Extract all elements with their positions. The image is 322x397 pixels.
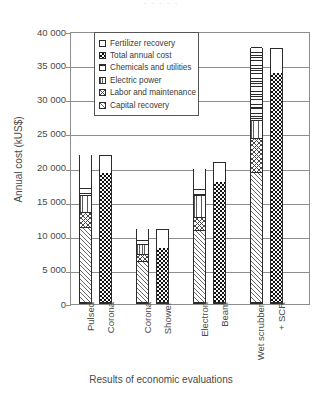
tick-25000 (66, 135, 71, 136)
segment-labor-maintenance (137, 255, 148, 263)
x-axis-labels: Pulsed Corona Corona Shower Electron Bea… (70, 306, 310, 368)
total-cost-bar-electron-beam (213, 162, 226, 304)
legend: Fertilizer recovery Total annual cost Ch… (94, 32, 199, 116)
segment-fertilizer-recovery (194, 168, 205, 189)
total-cost-bar-corona-shower (156, 229, 169, 304)
legend-item-labor-and-maintenance[interactable]: Labor and maintenance (99, 87, 194, 99)
segment-chemicals-utilities (137, 240, 148, 245)
segment-labor-maintenance (194, 218, 205, 232)
stacked-bar-wet-scrubber-scr (250, 48, 263, 304)
x-label-plus-scr: + SCR (276, 302, 287, 364)
segment-capital-recovery (194, 231, 205, 303)
legend-swatch-vertical-lines-icon (99, 77, 106, 84)
segment-capital-recovery (80, 228, 91, 303)
stacked-bar-electron-beam (193, 169, 206, 304)
legend-label: Chemicals and utilities (110, 63, 191, 72)
x-label-beam: Beam (219, 302, 230, 364)
tick-40000 (66, 33, 71, 34)
y-axis-title-wrap: Annual cost (kUS$) (0, 32, 24, 305)
chart-root: · · · · · 40 000 35 000 30 000 25 000 20… (0, 0, 322, 397)
segment-labor-maintenance (251, 139, 262, 173)
legend-swatch-diagonal-hatch-icon (99, 102, 106, 109)
legend-label: Labor and maintenance (110, 88, 196, 97)
tick-30000 (66, 101, 71, 102)
tick-5000 (66, 272, 71, 273)
segment-electric-power (80, 196, 91, 213)
legend-swatch-black-dotted-icon (99, 52, 106, 59)
x-axis-title: Results of economic evaluations (0, 374, 322, 385)
tick-35000 (66, 67, 71, 68)
x-label-wet-scrubber: Wet scrubber (256, 304, 266, 364)
segment-fertilizer-recovery (137, 228, 148, 240)
tick-20000 (66, 170, 71, 171)
segment-capital-recovery (137, 262, 148, 303)
segment-fertilizer-recovery (251, 47, 262, 108)
segment-electric-power (251, 121, 262, 139)
total-cost-bar-wet-scrubber-scr (270, 48, 283, 304)
total-cost-bar-pulsed-corona (99, 155, 112, 304)
segment-total-annual-cost (100, 173, 111, 303)
segment-electric-power (194, 196, 205, 218)
legend-item-fertilizer-recovery[interactable]: Fertilizer recovery (99, 37, 194, 49)
stacked-bar-corona-shower (136, 229, 149, 304)
segment-labor-maintenance (80, 213, 91, 228)
legend-label: Total annual cost (110, 51, 171, 60)
x-label-electron: Electron (199, 302, 210, 364)
segment-chemicals-utilities (80, 188, 91, 196)
legend-swatch-horizontal-lines-icon (99, 64, 106, 71)
x-label-pulsed: Pulsed (85, 302, 96, 364)
x-label-shower: Shower (162, 302, 173, 364)
segment-fertilizer-recovery (80, 154, 91, 188)
x-label-corona-2: Corona (142, 302, 153, 364)
legend-swatch-white-icon (99, 40, 106, 47)
y-axis-title: Annual cost (kUS$) (13, 30, 24, 290)
legend-item-chemicals-and-utilities[interactable]: Chemicals and utilities (99, 62, 194, 74)
x-label-corona-1: Corona (105, 302, 116, 364)
segment-chemicals-utilities (251, 108, 262, 121)
legend-item-total-annual-cost[interactable]: Total annual cost (99, 49, 194, 61)
legend-item-electric-power[interactable]: Electric power (99, 74, 194, 86)
clipped-header-text: · · · · · (0, 0, 322, 7)
segment-electric-power (137, 245, 148, 255)
segment-total-annual-cost (271, 73, 282, 303)
legend-swatch-cross-hatch-icon (99, 89, 106, 96)
plot-area: Fertilizer recovery Total annual cost Ch… (70, 32, 310, 305)
legend-label: Electric power (110, 76, 161, 85)
stacked-bar-pulsed-corona (79, 155, 92, 304)
segment-total-annual-cost (157, 248, 168, 303)
legend-label: Fertilizer recovery (110, 39, 175, 48)
legend-label: Capital recovery (110, 101, 169, 110)
segment-total-annual-cost (214, 182, 225, 303)
legend-item-capital-recovery[interactable]: Capital recovery (99, 99, 194, 111)
segment-capital-recovery (251, 173, 262, 303)
tick-15000 (66, 204, 71, 205)
tick-10000 (66, 238, 71, 239)
segment-chemicals-utilities (194, 189, 205, 197)
